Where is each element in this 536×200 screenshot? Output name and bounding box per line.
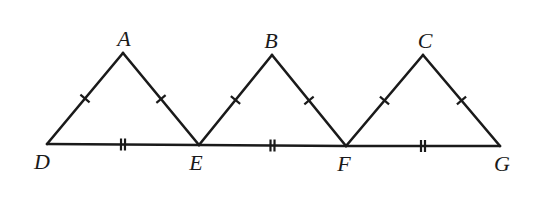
vertex-label-b: B: [264, 28, 277, 53]
vertex-label-e: E: [188, 150, 203, 175]
geometry-diagram: ABCDEFG: [0, 0, 536, 200]
vertex-label-a: A: [115, 26, 131, 51]
vertex-label-d: D: [33, 149, 50, 174]
vertex-label-f: F: [336, 151, 351, 176]
vertex-label-c: C: [418, 28, 433, 53]
segments-layer: [47, 53, 500, 146]
vertex-labels-layer: ABCDEFG: [33, 26, 510, 176]
segment-de: [47, 144, 199, 145]
segment-ef: [199, 145, 346, 146]
vertex-label-g: G: [494, 151, 510, 176]
